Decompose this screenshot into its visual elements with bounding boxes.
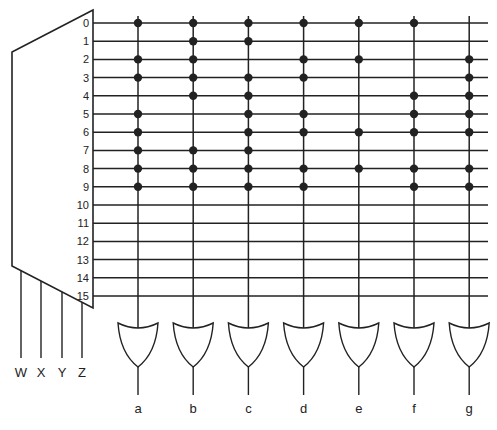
output-label: 1 bbox=[83, 35, 89, 47]
output-label: 14 bbox=[77, 272, 89, 284]
connection-dot bbox=[355, 55, 363, 63]
connection-dot bbox=[465, 110, 473, 118]
connection-dot bbox=[244, 146, 252, 154]
connection-dot bbox=[299, 55, 307, 63]
output-label: 5 bbox=[83, 108, 89, 120]
connection-dot bbox=[299, 183, 307, 191]
connection-dot bbox=[244, 73, 252, 81]
segment-label: d bbox=[300, 401, 307, 416]
output-label: 12 bbox=[77, 235, 89, 247]
connection-dot bbox=[134, 110, 142, 118]
or-gate-a bbox=[118, 323, 158, 367]
output-label: 10 bbox=[77, 199, 89, 211]
diagram-canvas: 0123456789101112131415 WXYZ abcdefg bbox=[0, 0, 497, 430]
connection-dot bbox=[465, 92, 473, 100]
connection-dot bbox=[134, 146, 142, 154]
connection-dot bbox=[465, 73, 473, 81]
or-gate-b bbox=[173, 323, 213, 367]
connection-dot bbox=[410, 128, 418, 136]
decoder-diagram: 0123456789101112131415 WXYZ abcdefg bbox=[0, 0, 497, 430]
connection-dot bbox=[189, 92, 197, 100]
output-label: 4 bbox=[83, 90, 89, 102]
connection-dot bbox=[355, 164, 363, 172]
or-gate-f bbox=[394, 323, 434, 367]
segment-label: f bbox=[412, 401, 416, 416]
output-label: 9 bbox=[83, 181, 89, 193]
connection-dot bbox=[410, 164, 418, 172]
or-gate-g bbox=[449, 323, 489, 367]
output-label: 11 bbox=[78, 217, 89, 229]
connection-dot bbox=[134, 73, 142, 81]
input-label: Z bbox=[78, 365, 86, 380]
connection-dot bbox=[244, 164, 252, 172]
connection-dot bbox=[299, 164, 307, 172]
connection-dot bbox=[355, 19, 363, 27]
segment-label: e bbox=[355, 401, 362, 416]
connection-dot bbox=[189, 73, 197, 81]
or-gate-d bbox=[284, 323, 324, 367]
segment-label: a bbox=[134, 401, 142, 416]
connection-dot bbox=[189, 37, 197, 45]
connection-dot bbox=[465, 128, 473, 136]
segment-label: c bbox=[245, 401, 252, 416]
connection-dot bbox=[299, 19, 307, 27]
connection-dot bbox=[134, 183, 142, 191]
output-label: 8 bbox=[83, 163, 89, 175]
connection-dot bbox=[299, 73, 307, 81]
output-label: 3 bbox=[83, 72, 89, 84]
connection-dot bbox=[410, 92, 418, 100]
or-gate-c bbox=[228, 323, 268, 367]
connection-dot bbox=[465, 183, 473, 191]
connection-dot bbox=[244, 183, 252, 191]
connection-dot bbox=[189, 19, 197, 27]
output-label: 15 bbox=[77, 290, 89, 302]
connection-dot bbox=[244, 92, 252, 100]
output-label: 0 bbox=[83, 17, 89, 29]
output-label: 13 bbox=[77, 254, 89, 266]
connection-dot bbox=[244, 19, 252, 27]
connection-dot bbox=[244, 37, 252, 45]
output-label: 7 bbox=[83, 144, 89, 156]
connection-dot bbox=[410, 183, 418, 191]
connection-dot bbox=[134, 55, 142, 63]
input-label: Y bbox=[58, 365, 67, 380]
connection-dot bbox=[244, 110, 252, 118]
decoder-output-lines bbox=[93, 23, 488, 296]
connection-dot bbox=[410, 110, 418, 118]
connection-dot bbox=[189, 164, 197, 172]
connection-dot bbox=[465, 164, 473, 172]
or-gates: abcdefg bbox=[118, 323, 489, 416]
output-label: 2 bbox=[83, 53, 89, 65]
connection-dot bbox=[299, 128, 307, 136]
connection-dot bbox=[189, 183, 197, 191]
connection-dot bbox=[465, 55, 473, 63]
segment-label: b bbox=[190, 401, 197, 416]
connection-dot bbox=[134, 19, 142, 27]
connection-dot bbox=[299, 110, 307, 118]
or-gate-e bbox=[339, 323, 379, 367]
connection-dot bbox=[410, 19, 418, 27]
connection-dot bbox=[134, 164, 142, 172]
connection-dot bbox=[189, 55, 197, 63]
input-label: X bbox=[37, 365, 46, 380]
connection-dot bbox=[244, 128, 252, 136]
input-label: W bbox=[15, 365, 28, 380]
connection-dot bbox=[355, 128, 363, 136]
connection-dot bbox=[189, 146, 197, 154]
connection-dot bbox=[134, 128, 142, 136]
output-label: 6 bbox=[83, 126, 89, 138]
segment-label: g bbox=[466, 401, 473, 416]
